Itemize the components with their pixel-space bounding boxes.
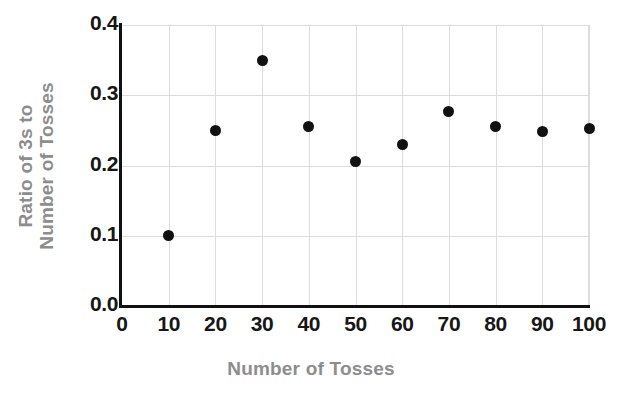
- y-axis-line: [119, 23, 122, 308]
- y-tick-label: 0.4: [64, 11, 118, 35]
- x-axis-line: [119, 305, 590, 308]
- data-point: [163, 230, 174, 241]
- y-axis-title-line-1: Ratio of 3s to: [15, 104, 36, 227]
- x-tick-label: 20: [204, 312, 227, 336]
- x-tick-label: 0: [116, 312, 127, 336]
- data-point: [303, 121, 314, 132]
- data-point: [210, 125, 221, 136]
- data-point: [490, 121, 501, 132]
- x-tick-label: 80: [484, 312, 507, 336]
- x-tick-label: 30: [251, 312, 274, 336]
- x-tick-label: 40: [298, 312, 321, 336]
- data-point: [257, 55, 268, 66]
- data-point: [537, 126, 548, 137]
- y-axis-title-text: Ratio of 3s to Number of Tosses: [16, 82, 57, 250]
- gridline-horizontal: [122, 95, 589, 96]
- y-tick-label: 0.2: [64, 152, 118, 176]
- x-axis-title: Number of Tosses: [0, 358, 622, 380]
- x-tick-label: 10: [157, 312, 180, 336]
- clipped-chart-title-text: Ratio of 3s to Number of Tosses: [60, 0, 457, 5]
- data-point: [397, 139, 408, 150]
- y-axis-tick-labels: 0.00.10.20.30.4: [60, 0, 118, 404]
- x-tick-label: 100: [572, 312, 606, 336]
- x-tick-label: 50: [344, 312, 367, 336]
- gridline-horizontal: [122, 25, 589, 26]
- x-tick-label: 60: [391, 312, 414, 336]
- data-point: [584, 123, 595, 134]
- y-tick-label: 0.1: [64, 222, 118, 246]
- x-tick-label: 70: [438, 312, 461, 336]
- plot-area: [122, 25, 589, 306]
- x-axis-tick-labels: 0102030405060708090100: [0, 312, 622, 342]
- gridline-vertical: [589, 25, 590, 306]
- scatter-chart-figure: Ratio of 3s to Number of Tosses Ratio of…: [0, 0, 622, 404]
- y-axis-title: Ratio of 3s to Number of Tosses: [14, 25, 60, 306]
- gridline-horizontal: [122, 236, 589, 237]
- y-tick-label: 0.3: [64, 81, 118, 105]
- data-point: [443, 106, 454, 117]
- x-tick-label: 90: [531, 312, 554, 336]
- y-axis-title-line-2: Number of Tosses: [37, 82, 58, 250]
